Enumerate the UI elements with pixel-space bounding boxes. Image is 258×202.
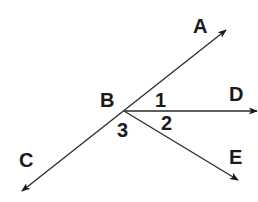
angle-1-label: 1 xyxy=(155,89,166,111)
label-a: A xyxy=(193,15,207,37)
angle-3-label: 3 xyxy=(117,119,128,141)
label-d: D xyxy=(229,83,243,105)
label-c: C xyxy=(19,149,33,171)
label-e: E xyxy=(229,146,242,168)
angle-2-label: 2 xyxy=(161,112,172,134)
angle-diagram: A B C D E 1 2 3 xyxy=(0,0,258,202)
ray-be xyxy=(124,111,238,180)
label-b: B xyxy=(100,89,114,111)
